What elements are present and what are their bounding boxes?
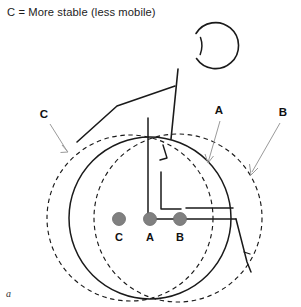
leader-line-a (209, 121, 221, 161)
callout-label-b: B (279, 106, 287, 118)
wheelchair-diagram: C A B C A B (0, 0, 301, 307)
trunk-line (171, 69, 178, 139)
callout-label-a: A (215, 104, 223, 116)
callout-label-c: C (40, 108, 48, 120)
figure-container: C = More stable (less mobile) (0, 0, 301, 307)
wheel-c-dashed (47, 135, 213, 301)
leg-line (161, 172, 181, 209)
axle-label-c: C (115, 231, 123, 243)
axle-dot-b (174, 213, 187, 226)
hip-bracket-line (160, 145, 167, 160)
ear-tick-icon (200, 38, 202, 55)
axle-dot-c (113, 213, 126, 226)
axle-dot-a (144, 213, 157, 226)
arm-line (77, 86, 175, 142)
panel-label: a (6, 288, 11, 299)
leader-line-b (252, 123, 280, 172)
axle-label-a: A (146, 231, 154, 243)
footrest-line (236, 219, 251, 272)
axle-label-b: B (176, 231, 184, 243)
leader-line-c (50, 124, 67, 151)
